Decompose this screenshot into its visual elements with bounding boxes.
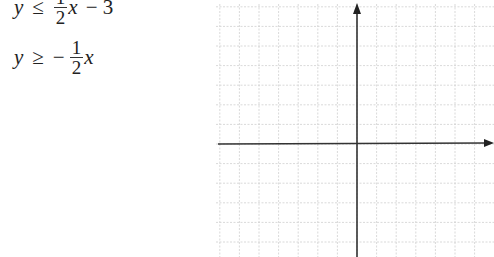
grid-lines [216,4,494,257]
coordinate-grid [0,0,494,257]
y-axis-arrow-icon [353,3,361,14]
y-axis [353,3,361,257]
x-axis-arrow-icon [484,139,494,147]
